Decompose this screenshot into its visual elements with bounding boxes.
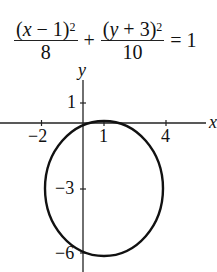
x-tick-label-neg2: −2: [28, 126, 47, 147]
x-tick-label-1: 1: [99, 126, 108, 147]
y-axis-label: y: [78, 60, 86, 81]
y-tick-label-neg3: −3: [55, 178, 74, 199]
x-axis-label: x: [209, 112, 217, 133]
y-tick-label-neg6: −6: [55, 243, 74, 264]
x-tick-label-4: 4: [161, 126, 170, 147]
y-tick-label-1: 1: [67, 92, 76, 113]
